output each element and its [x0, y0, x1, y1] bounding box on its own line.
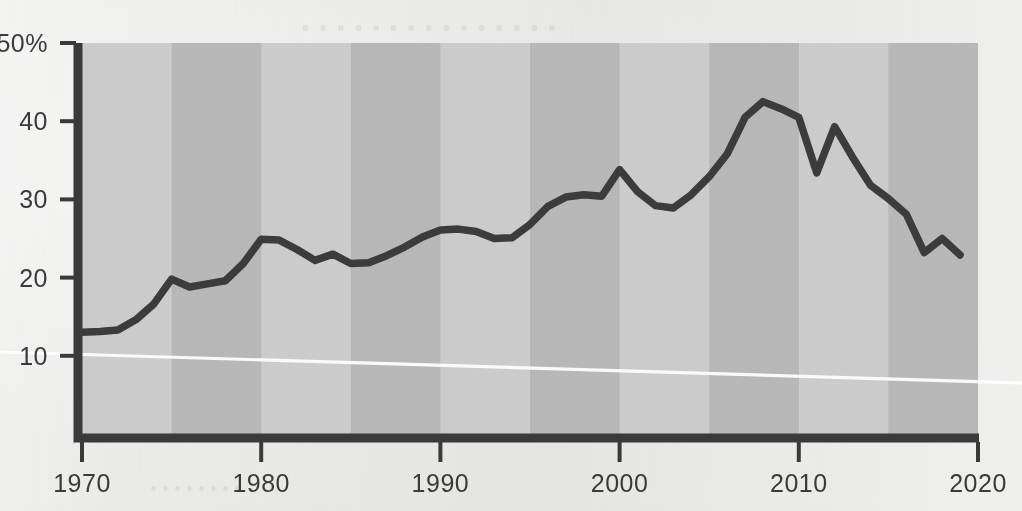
plot-bands — [82, 43, 978, 434]
x-tick-label: 2000 — [591, 469, 649, 497]
x-axis-tick-labels: 197019801990200020102020 — [53, 469, 1007, 497]
y-tick-label: 20 — [19, 264, 48, 292]
x-tick-label: 2010 — [770, 469, 828, 497]
x-tick-label: 2020 — [949, 469, 1007, 497]
x-tick-label: 1980 — [232, 469, 290, 497]
plot-band — [530, 43, 620, 434]
y-tick-label: 30 — [19, 185, 48, 213]
y-tick-label: 50% — [0, 29, 48, 57]
line-chart: 50%40302010 197019801990200020102020 — [0, 0, 1022, 511]
y-tick-label: 10 — [19, 342, 48, 370]
plot-band — [888, 43, 978, 434]
plot-band — [172, 43, 262, 434]
x-tick-label: 1970 — [53, 469, 111, 497]
y-tick-label: 40 — [19, 107, 48, 135]
y-axis-tick-labels: 50%40302010 — [0, 29, 48, 370]
x-axis-ticks — [82, 442, 978, 462]
x-tick-label: 1990 — [412, 469, 470, 497]
